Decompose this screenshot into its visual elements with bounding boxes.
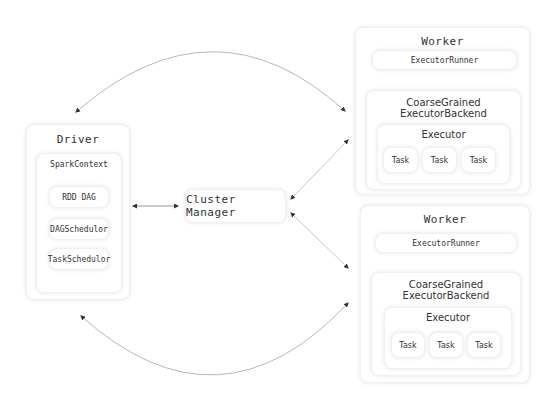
driver-title: Driver	[27, 133, 129, 146]
driver-box: Driver SparkContext RDD DAG DAGSchedulor…	[26, 124, 130, 300]
executor-label-1: Executor	[378, 129, 509, 140]
task-2-2: Task	[429, 332, 463, 358]
executor-runner-box-1: ExecutorRunner	[372, 50, 517, 70]
backend-label-2: CoarseGrained ExecutorBackend	[372, 279, 520, 301]
task-2-3: Task	[467, 332, 501, 358]
task-1-1: Task	[383, 147, 418, 173]
executor-runner-box-2: ExecutorRunner	[375, 233, 517, 253]
worker-box-1: Worker ExecutorRunner CoarseGrained Exec…	[355, 27, 530, 195]
arrow-cluster-worker-bottom	[291, 213, 348, 268]
rdd-dag-box: RDD DAG	[49, 186, 109, 208]
dag-scheduler-box: DAGSchedulor	[49, 218, 109, 240]
cluster-manager-box: Cluster Manager	[185, 189, 286, 223]
arc-driver-worker-bottom	[81, 303, 348, 375]
backend-box-2: CoarseGrained ExecutorBackend Executor T…	[371, 272, 521, 376]
worker-box-2: Worker ExecutorRunner CoarseGrained Exec…	[360, 205, 530, 383]
spark-context-label: SparkContext	[37, 160, 121, 169]
arrow-cluster-worker-top	[291, 140, 348, 199]
worker-title-1: Worker	[356, 35, 529, 48]
backend-box-1: CoarseGrained ExecutorBackend Executor T…	[366, 90, 521, 190]
arc-driver-worker-top	[76, 52, 345, 112]
executor-label-2: Executor	[385, 312, 511, 323]
task-1-3: Task	[461, 147, 496, 173]
worker-title-2: Worker	[361, 213, 529, 226]
task-2-1: Task	[391, 332, 425, 358]
executor-box-2: Executor Task Task Task	[384, 307, 512, 369]
spark-context-box: SparkContext RDD DAG DAGSchedulor TaskSc…	[36, 153, 122, 293]
task-scheduler-box: TaskSchedulor	[49, 248, 109, 270]
task-1-2: Task	[422, 147, 457, 173]
backend-label-1: CoarseGrained ExecutorBackend	[367, 97, 520, 119]
executor-box-1: Executor Task Task Task	[377, 124, 510, 184]
